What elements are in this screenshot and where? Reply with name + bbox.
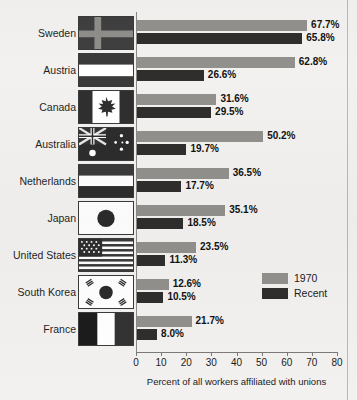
category-label: South Korea [0, 286, 76, 298]
bar-row: Canada 31.6%29.5% [0, 90, 357, 124]
x-axis-tick [262, 352, 263, 356]
bar-value-1970: 35.1% [229, 204, 257, 215]
bar-recent [137, 218, 183, 229]
x-axis-tick-label: 40 [231, 357, 242, 368]
category-label: Japan [0, 212, 76, 224]
x-axis-tick [237, 352, 238, 356]
bar-value-recent: 11.3% [169, 254, 197, 265]
chart-legend: 1970 Recent [262, 272, 327, 302]
bar-value-recent: 18.5% [187, 217, 215, 228]
legend-label-1970: 1970 [294, 272, 317, 284]
bar-value-1970: 36.5% [233, 167, 261, 178]
bar-value-recent: 8.0% [161, 328, 184, 339]
flag-united-states-icon [78, 238, 134, 272]
flag-france-icon [78, 312, 134, 346]
category-label: France [0, 323, 76, 335]
bar-recent [137, 144, 186, 155]
bar-1970 [137, 279, 169, 290]
bar-row: Australia 50.2%19.7% [0, 127, 357, 161]
bar-1970 [137, 20, 307, 31]
bar-1970 [137, 94, 216, 105]
figure-right-border [347, 0, 348, 400]
x-axis-tick-label: 80 [331, 357, 342, 368]
plot-area: 01020304050607080 Percent of all workers… [0, 0, 357, 400]
category-label: Netherlands [0, 175, 76, 187]
bar-1970 [137, 242, 196, 253]
legend-item-recent: Recent [262, 287, 327, 299]
bar-value-1970: 21.7% [196, 315, 224, 326]
bar-value-recent: 65.8% [306, 32, 334, 43]
bar-value-1970: 23.5% [200, 241, 228, 252]
bar-value-recent: 19.7% [190, 143, 218, 154]
bar-value-1970: 50.2% [267, 130, 295, 141]
x-axis-tick-label: 60 [281, 357, 292, 368]
x-axis-tick [136, 352, 137, 356]
x-axis-tick [337, 352, 338, 356]
x-axis-tick-label: 70 [306, 357, 317, 368]
bar-recent [137, 181, 181, 192]
bar-value-1970: 12.6% [173, 278, 201, 289]
bar-recent [137, 107, 211, 118]
flag-austria-icon [78, 53, 134, 87]
flag-australia-icon [78, 127, 134, 161]
bar-row: Sweden 67.7%65.8% [0, 16, 357, 50]
legend-swatch-recent-icon [262, 288, 288, 299]
x-axis-tick [161, 352, 162, 356]
bar-value-recent: 17.7% [185, 180, 213, 191]
x-axis-tick [211, 352, 212, 356]
x-axis-tick [287, 352, 288, 356]
x-axis-tick-label: 30 [206, 357, 217, 368]
bar-recent [137, 70, 204, 81]
bar-value-1970: 31.6% [220, 93, 248, 104]
bar-value-recent: 29.5% [215, 106, 243, 117]
bar-1970 [137, 131, 263, 142]
bar-1970 [137, 316, 192, 327]
bar-1970 [137, 57, 295, 68]
bar-row: Austria 62.8%26.6% [0, 53, 357, 87]
bar-recent [137, 329, 157, 340]
flag-sweden-icon [78, 16, 134, 50]
category-label: United States [0, 249, 76, 261]
category-label: Australia [0, 138, 76, 150]
legend-item-1970: 1970 [262, 272, 327, 284]
flag-japan-icon [78, 201, 134, 235]
bar-recent [137, 292, 163, 303]
chart-figure: 01020304050607080 Percent of all workers… [0, 0, 357, 400]
flag-netherlands-icon [78, 164, 134, 198]
bar-value-recent: 26.6% [208, 69, 236, 80]
x-axis-title: Percent of all workers affiliated with u… [136, 376, 337, 387]
bar-row: United States 23.5%11.3% [0, 238, 357, 272]
x-axis-tick [312, 352, 313, 356]
bar-recent [137, 33, 302, 44]
x-axis-tick-label: 20 [181, 357, 192, 368]
x-axis-tick [186, 352, 187, 356]
bar-value-1970: 62.8% [299, 56, 327, 67]
bar-row: France 21.7%8.0% [0, 312, 357, 346]
bar-value-recent: 10.5% [167, 291, 195, 302]
bar-recent [137, 255, 165, 266]
x-axis-tick-label: 0 [133, 357, 139, 368]
category-label: Austria [0, 64, 76, 76]
x-axis-tick-label: 50 [256, 357, 267, 368]
category-label: Canada [0, 101, 76, 113]
legend-label-recent: Recent [294, 287, 327, 299]
bar-1970 [137, 168, 229, 179]
x-axis-tick-label: 10 [156, 357, 167, 368]
flag-south-korea-icon [78, 275, 134, 309]
bar-value-1970: 67.7% [311, 19, 339, 30]
category-label: Sweden [0, 27, 76, 39]
legend-swatch-1970-icon [262, 273, 288, 284]
bar-1970 [137, 205, 225, 216]
bar-row: Netherlands 36.5%17.7% [0, 164, 357, 198]
flag-canada-icon [78, 90, 134, 124]
bar-row: Japan 35.1%18.5% [0, 201, 357, 235]
